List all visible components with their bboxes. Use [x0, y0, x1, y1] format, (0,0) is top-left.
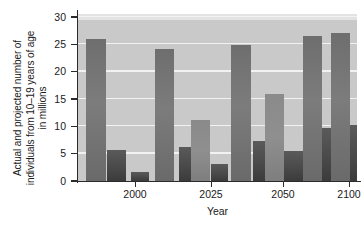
chart-figure: Actual and projected number of individua… [0, 0, 364, 225]
x-tick-label-2100: 2100 [329, 189, 364, 200]
y-tick-25 [71, 44, 77, 45]
plot-area [78, 14, 357, 181]
y-tick-label-20: 20 [44, 66, 66, 77]
y-tick-label-5: 5 [44, 148, 66, 159]
bar-4 [155, 49, 174, 181]
x-tick-label-2050: 2050 [263, 189, 303, 200]
bar-10 [265, 94, 284, 181]
bar-15 [350, 125, 357, 181]
bar-3 [131, 172, 149, 181]
bar-2 [107, 150, 126, 181]
y-tick-0 [71, 180, 77, 181]
bar-14 [331, 33, 350, 181]
x-tick-2100 [349, 182, 350, 187]
x-axis-title: Year [78, 205, 357, 217]
y-tick-label-10: 10 [44, 121, 66, 132]
y-tick-10 [71, 126, 77, 127]
y-tick-label-0: 0 [44, 176, 66, 187]
x-tick-2050 [283, 182, 284, 187]
bar-11 [284, 151, 303, 181]
x-tick-2025 [211, 182, 212, 187]
y-axis-line [77, 10, 78, 183]
y-tick-15 [71, 98, 77, 99]
bar-7 [211, 164, 228, 181]
bar-5 [179, 147, 191, 181]
y-tick-30 [71, 16, 77, 17]
bar-1 [86, 39, 106, 181]
y-tick-label-30: 30 [44, 12, 66, 23]
x-axis-line [77, 181, 361, 182]
x-tick-2000 [135, 182, 136, 187]
y-axis-title-line-2: individuals from 10–19 years of age [25, 31, 37, 185]
y-tick-20 [71, 71, 77, 72]
y-tick-label-25: 25 [44, 39, 66, 50]
y-tick-label-15: 15 [44, 94, 66, 105]
gridline-30 [78, 16, 357, 18]
y-axis-title-line-1: Actual and projected number of [12, 40, 24, 176]
x-tick-label-2000: 2000 [115, 189, 155, 200]
bar-12 [303, 36, 322, 181]
x-tick-label-2025: 2025 [191, 189, 231, 200]
y-tick-5 [71, 153, 77, 154]
bar-6 [191, 120, 210, 181]
bar-9 [253, 141, 265, 181]
bar-8 [231, 45, 251, 181]
